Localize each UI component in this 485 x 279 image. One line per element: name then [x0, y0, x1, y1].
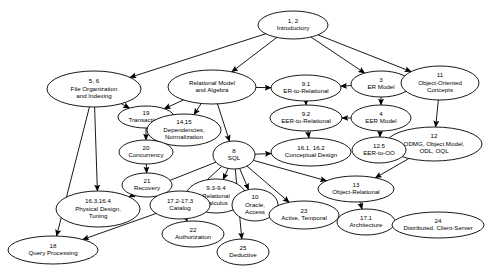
node-number: 17.2-17.3: [167, 197, 194, 204]
edge-n14-to-n12: [255, 154, 271, 155]
node-n27[interactable]: 18Query Processing: [8, 236, 98, 264]
node-n22[interactable]: 23Active, Temporal: [269, 201, 339, 229]
node-label: ODL, OQL: [419, 147, 449, 154]
node-n12[interactable]: 16.1, 16.2Conceptual Design: [271, 138, 351, 166]
node-number: 9.1: [302, 80, 311, 87]
node-label: Distributed, Client-Server: [403, 224, 472, 231]
node-number: 10: [252, 193, 259, 200]
node-label: SQL: [228, 154, 241, 161]
node-label: Deductive: [229, 251, 257, 258]
node-label: Object-Relational: [332, 188, 379, 195]
node-label: Recovery: [134, 184, 161, 191]
node-n6[interactable]: 11Object-OrientedConcepts: [401, 66, 479, 100]
node-n20[interactable]: 16.3,16.4Physical Design,Tuning: [56, 191, 140, 227]
edge-n16-to-n23: [360, 202, 362, 209]
node-number: 9.3-9.4: [206, 184, 226, 191]
node-n10[interactable]: 4EER Model: [351, 105, 411, 131]
node-n1[interactable]: 1, 2Introductory: [258, 11, 328, 39]
edge-n2-to-n7: [121, 104, 129, 108]
node-number: 22: [190, 226, 197, 233]
node-label: Query Processing: [28, 249, 78, 256]
node-n13[interactable]: 12.5EER-to-OO: [352, 137, 406, 163]
node-number: 24: [435, 217, 442, 224]
node-label: EER-to-Relational: [281, 117, 331, 124]
node-label: and Indexing: [76, 92, 112, 99]
node-label: ODMG, Object Model,: [404, 140, 465, 147]
node-number: 11: [437, 71, 444, 78]
node-label: Normalization: [165, 133, 203, 140]
node-number: 20: [143, 144, 150, 151]
node-label: Tuning: [89, 212, 108, 219]
node-label: Object-Oriented: [418, 79, 462, 86]
node-n4[interactable]: 9.1ER-to-Relational: [271, 75, 341, 101]
diagram-canvas: 1, 2Introductory5, 6File Organizationand…: [0, 0, 485, 279]
node-n16[interactable]: 13Object-Relational: [318, 176, 394, 202]
edge-n1-to-n6: [318, 35, 411, 72]
edge-n14-to-n18: [223, 168, 228, 179]
node-label: Dependencies,: [163, 126, 205, 133]
node-label: Authorization: [175, 233, 212, 240]
node-number: 12: [431, 132, 438, 139]
node-n9[interactable]: 9.2EER-to-Relational: [270, 105, 342, 131]
node-number: 16.1, 16.2: [297, 144, 325, 151]
node-label: Catalog: [169, 204, 191, 211]
node-number: 16.3,16.4: [85, 197, 111, 204]
edge-n9-to-n12: [308, 131, 309, 138]
node-label: Conceptual Design: [285, 151, 338, 158]
node-number: 25: [240, 244, 247, 251]
node-number: 13: [353, 181, 360, 188]
node-label: ER Model: [367, 83, 394, 90]
edge-n3-to-n7: [164, 100, 183, 109]
edge-n5-to-n4: [341, 86, 352, 87]
node-number: 17.1: [360, 214, 373, 221]
node-number: 4: [379, 110, 383, 117]
node-n23[interactable]: 17.1Architecture: [337, 209, 395, 235]
node-layer: 1, 2Introductory5, 6File Organizationand…: [8, 11, 484, 265]
node-number: 1, 2: [288, 17, 299, 24]
node-number: 12.5: [373, 142, 386, 149]
node-label: Physical Design,: [75, 205, 121, 212]
node-label: EER Model: [365, 117, 396, 124]
node-n3[interactable]: Relational Modeland Algebra: [168, 70, 256, 104]
node-label: EER-to-OO: [363, 149, 395, 156]
node-n2[interactable]: 5, 6File Organizationand Indexing: [47, 71, 141, 107]
node-label: Introductory: [277, 24, 311, 31]
node-label: Architecture: [349, 221, 383, 228]
node-n14[interactable]: 8SQL: [213, 141, 255, 169]
node-label: Active, Temporal: [281, 214, 327, 221]
node-number: 9.2: [302, 110, 311, 117]
node-label: File Organization: [71, 85, 118, 92]
node-number: 3: [379, 76, 383, 83]
edge-n2-to-n20: [95, 107, 98, 191]
chapter-dependency-diagram: 1, 2Introductory5, 6File Organizationand…: [0, 0, 485, 279]
node-label: ER-to-Relational: [283, 87, 328, 94]
node-label: Oracle,: [245, 201, 265, 208]
node-number: 23: [301, 207, 308, 214]
node-label: Relational: [202, 192, 230, 199]
node-number: 14,15: [176, 118, 192, 125]
node-n25[interactable]: 22Authorization: [162, 221, 224, 247]
node-number: 18: [50, 242, 57, 249]
node-number: 5, 6: [89, 77, 100, 84]
node-n26[interactable]: 25Deductive: [217, 239, 269, 265]
edge-n6-to-n11: [436, 100, 439, 127]
node-label: Concepts: [427, 86, 453, 93]
node-number: 21: [144, 177, 151, 184]
node-label: Relational Model: [189, 79, 235, 86]
edge-n3-to-n8: [194, 103, 201, 114]
node-number: 19: [143, 109, 150, 116]
node-n24[interactable]: 24Distributed, Client-Server: [392, 212, 484, 238]
node-label: Access: [245, 208, 265, 215]
node-label: Concurrency: [128, 151, 164, 158]
node-n15[interactable]: 20Concurrency: [119, 140, 173, 164]
node-number: 8: [232, 147, 236, 154]
node-n19[interactable]: 17.2-17.3Catalog: [150, 191, 210, 219]
node-label: and Algebra: [195, 86, 229, 93]
